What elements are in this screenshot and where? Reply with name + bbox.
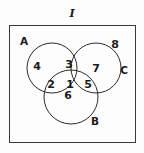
region-label-3: 3 xyxy=(65,59,73,70)
region-label-8: 8 xyxy=(111,39,119,50)
set-label-C: C xyxy=(120,65,128,76)
set-label-B: B xyxy=(91,116,99,127)
set-label-A: A xyxy=(20,36,28,47)
region-label-2: 2 xyxy=(47,79,55,90)
region-label-7: 7 xyxy=(92,63,100,74)
region-label-6: 6 xyxy=(64,90,72,101)
region-label-5: 5 xyxy=(84,79,92,90)
region-label-4: 4 xyxy=(33,61,41,72)
venn-diagram-figure: I A B C 1 2 3 4 5 6 7 8 xyxy=(0,0,144,153)
universe-label: I xyxy=(69,8,74,19)
venn-diagram-canvas xyxy=(0,0,144,153)
